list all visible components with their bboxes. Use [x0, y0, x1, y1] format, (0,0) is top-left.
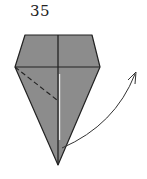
- origami-diagram: [0, 0, 147, 179]
